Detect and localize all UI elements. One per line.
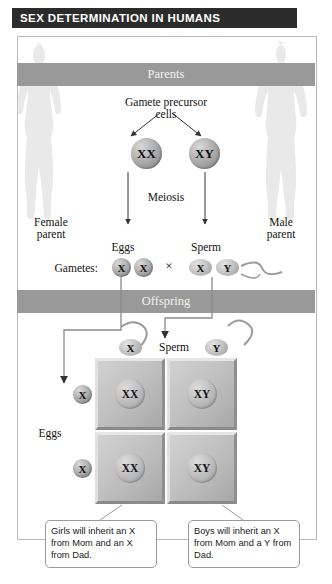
- sperm-mid-label: Sperm: [151, 341, 197, 354]
- precursor-cell-xy: XY: [189, 138, 220, 169]
- sperm-gamete-x: X: [189, 259, 212, 276]
- sex-determination-figure: SEX DETERMINATION IN HUMANS Parents Offs…: [0, 0, 332, 584]
- male-parent-label-line2: parent: [252, 228, 310, 241]
- offspring-sperm-x: X: [119, 339, 142, 356]
- offspring-sperm-y: Y: [205, 339, 228, 356]
- egg-gamete-1: X: [112, 258, 131, 277]
- callout-boys: Boys will inherit an X from Mom and a Y …: [188, 520, 300, 568]
- offspring-egg-x-top: X: [73, 385, 92, 404]
- punnett-genotype-1-0: XX: [115, 453, 145, 483]
- eggs-label: Eggs: [100, 241, 146, 254]
- female-parent-label-line2: parent: [22, 228, 80, 241]
- callout-girls: Girls will inherit an X from Mom and an …: [45, 520, 157, 568]
- punnett-cell-0-0: XX: [95, 358, 165, 430]
- gamete-precursor-label-line2: cells: [105, 108, 227, 121]
- sperm-label: Sperm: [182, 241, 230, 254]
- gametes-label: Gametes:: [36, 262, 98, 275]
- sperm-gamete-y: Y: [216, 259, 239, 276]
- precursor-cell-xx: XX: [131, 138, 162, 169]
- male-parent-label-line1: Male: [252, 216, 310, 229]
- punnett-genotype-0-1: XY: [187, 379, 217, 409]
- eggs-side-label: Eggs: [28, 427, 72, 440]
- punnett-genotype-0-0: XX: [115, 379, 145, 409]
- punnett-cell-1-0: XX: [95, 432, 165, 504]
- punnett-cell-1-1: XY: [167, 432, 237, 504]
- egg-gamete-2: X: [134, 258, 153, 277]
- female-parent-label-line1: Female: [22, 216, 80, 229]
- offspring-egg-x-bottom: X: [73, 459, 92, 478]
- gamete-precursor-label-line1: Gamete precursor: [105, 96, 227, 109]
- meiosis-label: Meiosis: [133, 191, 199, 204]
- punnett-square: XX XY XX XY: [95, 358, 239, 506]
- punnett-genotype-1-1: XY: [187, 453, 217, 483]
- cross-symbol: ×: [158, 260, 180, 273]
- punnett-cell-0-1: XY: [167, 358, 237, 430]
